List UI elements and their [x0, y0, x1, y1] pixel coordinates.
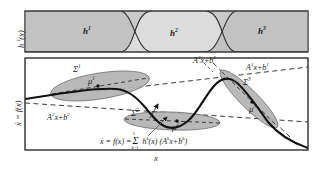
equation-affine-open: (A	[160, 137, 168, 146]
equation-lhs: ẋ = f(x) =	[100, 137, 131, 146]
h1-sup: 1	[88, 25, 91, 31]
x-axis-label-text: x	[154, 153, 158, 163]
mu2-label: μ2	[172, 122, 179, 131]
affine1-supB: 1	[266, 62, 268, 67]
h2-sup: 2	[175, 27, 178, 33]
affine3-supB: 3	[213, 55, 215, 60]
mu1-point	[96, 84, 99, 87]
sigma3-label: Σ3	[243, 77, 251, 86]
affine2-supB: 2	[67, 112, 69, 117]
mu1-sup: 1	[92, 75, 95, 81]
sigma1-label: Σ1	[73, 64, 81, 73]
equation-sum-upper: 3	[132, 132, 134, 137]
affine1-x: x+	[253, 63, 262, 72]
mu2-sup: 2	[176, 121, 179, 127]
sigma3-sup: 3	[248, 76, 251, 82]
h1-label: h1	[83, 26, 91, 36]
equation-affine-close: )	[184, 137, 187, 146]
mu1-label: μ1	[88, 76, 95, 85]
bottom-panel-ylabel: ẋ = f(x)	[14, 100, 23, 126]
equation-h-arg: (x)	[149, 137, 158, 146]
h3-sup: 3	[263, 25, 266, 31]
top-ylabel-h: h	[16, 44, 26, 48]
figure-root: h1i(x) h1 h2 h3 ẋ = f(x) x Σ1 Σ2 Σ3 μ1 μ…	[0, 0, 313, 169]
affine-label-1: A1x+b1	[246, 63, 269, 72]
mu3-sup: 3	[253, 103, 256, 109]
affine-label-3: A3x+b3	[193, 56, 216, 65]
affine-label-2: A2x+b2	[47, 113, 70, 122]
top-panel-ylabel: h1i(x)	[16, 30, 25, 48]
mu3-label: μ3	[249, 104, 256, 113]
equation-sum-lower: k=1	[131, 146, 138, 151]
x-axis-label: x	[154, 154, 158, 163]
affine2-x: x+	[54, 113, 63, 122]
sigma1-sup: 1	[78, 63, 81, 69]
main-equation: ẋ = f(x) = Σ3k=1 hk(x)(Akx+bk)	[100, 136, 187, 146]
h3-label: h3	[258, 26, 266, 36]
sigma2-label: Σ2	[131, 108, 139, 117]
affine3-x: x+	[200, 56, 209, 65]
bottom-ylabel-text: ẋ = f(x)	[13, 100, 23, 126]
top-ylabel-arg: (x)	[16, 30, 26, 39]
h2-label: h2	[170, 28, 178, 38]
sigma2-sup: 2	[136, 107, 139, 113]
equation-affine-mid: x+b	[169, 137, 182, 146]
